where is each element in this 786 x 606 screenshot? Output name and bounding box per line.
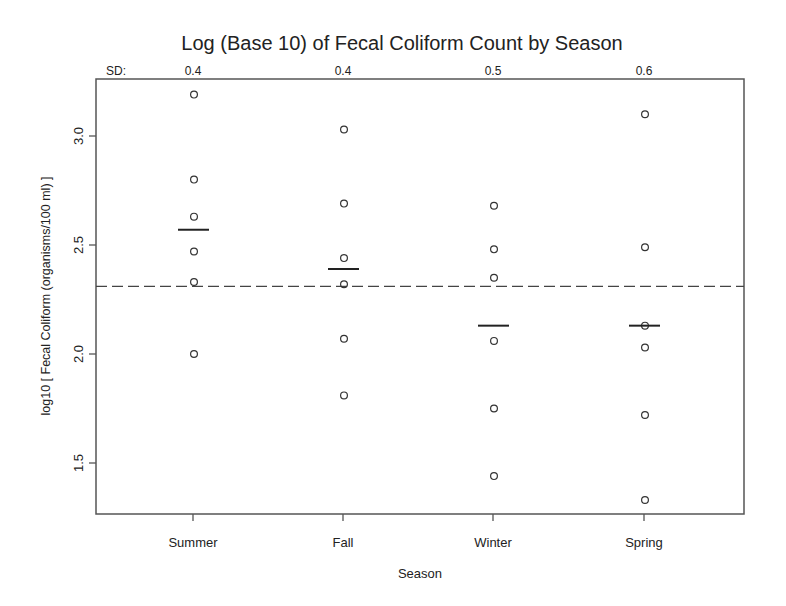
- data-point-circle: [191, 248, 198, 255]
- sd-value-winter: 0.5: [485, 64, 502, 78]
- data-point-circle: [191, 91, 198, 98]
- data-point-circle: [642, 497, 649, 504]
- sd-value-spring: 0.6: [636, 64, 653, 78]
- data-point-circle: [491, 246, 498, 253]
- season-mean-bars: [178, 230, 660, 326]
- x-axis-label: Season: [398, 566, 442, 581]
- x-tick-label-spring: Spring: [625, 535, 663, 550]
- x-tick-label-winter: Winter: [474, 535, 512, 550]
- sd-value-summer: 0.4: [185, 64, 202, 78]
- sd-label: SD:: [106, 64, 126, 78]
- data-point-circle: [341, 392, 348, 399]
- chart: Log (Base 10) of Fecal Coliform Count by…: [0, 0, 786, 606]
- data-point-circle: [341, 126, 348, 133]
- data-point-circle: [491, 473, 498, 480]
- plot-frame: [96, 79, 744, 514]
- data-point-circle: [341, 255, 348, 262]
- data-point-circle: [642, 244, 649, 251]
- data-points: [191, 91, 649, 503]
- data-point-circle: [341, 200, 348, 207]
- y-tick-label: 1.5: [71, 454, 86, 472]
- data-point-circle: [191, 279, 198, 286]
- chart-title: Log (Base 10) of Fecal Coliform Count by…: [181, 32, 622, 54]
- data-point-circle: [341, 335, 348, 342]
- data-point-circle: [191, 176, 198, 183]
- y-tick-label: 2.5: [71, 236, 86, 254]
- y-tick-label: 2.0: [71, 345, 86, 363]
- data-point-circle: [191, 351, 198, 358]
- x-tick-label-summer: Summer: [168, 535, 218, 550]
- data-point-circle: [491, 405, 498, 412]
- sd-value-fall: 0.4: [335, 64, 352, 78]
- y-tick-label: 3.0: [71, 127, 86, 145]
- y-axis-label: log10 [ Fecal Coliform (organisms/100 ml…: [39, 177, 53, 416]
- data-point-circle: [491, 274, 498, 281]
- data-point-circle: [491, 202, 498, 209]
- data-point-circle: [491, 338, 498, 345]
- x-axis: SummerFallWinterSpring: [168, 514, 662, 550]
- x-tick-label-fall: Fall: [333, 535, 354, 550]
- data-point-circle: [642, 344, 649, 351]
- y-axis: 1.52.02.53.0: [71, 127, 96, 472]
- data-point-circle: [191, 213, 198, 220]
- data-point-circle: [642, 412, 649, 419]
- sd-row: SD: 0.40.40.50.6: [106, 64, 653, 78]
- data-point-circle: [642, 111, 649, 118]
